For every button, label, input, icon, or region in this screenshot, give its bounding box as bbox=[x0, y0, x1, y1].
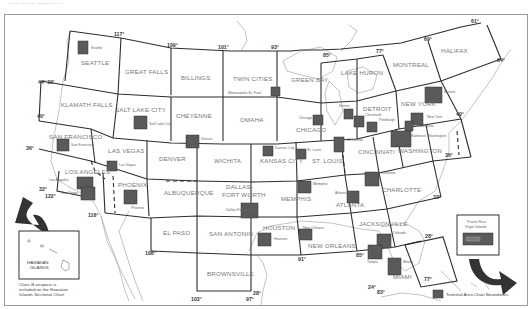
hawaii-inset[interactable]: HAWAIIAN ISLANDS bbox=[19, 231, 79, 279]
sectional-montreal[interactable]: MONTREAL bbox=[393, 61, 429, 68]
svg-text:ISLANDS: ISLANDS bbox=[30, 265, 49, 270]
svg-text:61°: 61° bbox=[471, 18, 479, 24]
svg-text:Orlando: Orlando bbox=[393, 231, 406, 235]
svg-text:Minneapolis-St. Paul: Minneapolis-St. Paul bbox=[228, 91, 261, 95]
svg-text:122°: 122° bbox=[45, 193, 56, 199]
svg-text:San Francisco: San Francisco bbox=[71, 143, 94, 147]
svg-text:St. Louis: St. Louis bbox=[307, 148, 321, 152]
sectional-albuquerque[interactable]: ALBUQUERQUE bbox=[164, 189, 214, 196]
sectional-san-antonio[interactable]: SAN ANTONIO bbox=[209, 230, 253, 237]
sectional-great-falls[interactable]: GREAT FALLS bbox=[125, 68, 168, 75]
svg-text:Houston: Houston bbox=[274, 237, 287, 241]
sectional-chicago[interactable]: CHICAGO bbox=[296, 126, 326, 133]
sectional-omaha[interactable]: OMAHA bbox=[240, 116, 264, 123]
sectional-seattle[interactable]: SEATTLE bbox=[81, 59, 109, 66]
svg-text:Detroit: Detroit bbox=[339, 104, 350, 108]
sectional-salt-lake-city[interactable]: SALT LAKE CITY bbox=[115, 106, 166, 113]
svg-text:109°: 109° bbox=[167, 42, 178, 48]
sectional-brownsville[interactable]: BROWNSVILLE bbox=[207, 270, 254, 277]
sectional-washington[interactable]: WASHINGTON bbox=[398, 147, 442, 154]
svg-text:97°: 97° bbox=[246, 296, 254, 302]
sectional-lake-huron[interactable]: LAKE HURON bbox=[341, 69, 383, 76]
svg-text:New Orleans: New Orleans bbox=[303, 226, 324, 230]
svg-text:28°: 28° bbox=[425, 233, 433, 239]
svg-text:Cleveland: Cleveland bbox=[365, 113, 381, 117]
sectional-twin-cities[interactable]: TWIN CITIES bbox=[233, 75, 273, 82]
sectional-denver[interactable]: DENVER bbox=[159, 155, 186, 162]
legend-swatch bbox=[433, 290, 443, 298]
svg-text:101°: 101° bbox=[218, 44, 229, 50]
svg-text:Las Vegas: Las Vegas bbox=[119, 163, 136, 167]
svg-text:28°: 28° bbox=[253, 290, 261, 296]
sectional-green-bay[interactable]: GREEN BAY bbox=[291, 76, 328, 83]
svg-text:64°: 64° bbox=[497, 57, 505, 63]
sectional-las-vegas[interactable]: LAS VEGAS bbox=[108, 147, 145, 154]
puerto-rico-inset[interactable]: Puerto Rico- Virgin Islands bbox=[457, 215, 499, 255]
sectional-los-angeles[interactable]: LOS ANGELES bbox=[65, 168, 110, 175]
svg-text:117°: 117° bbox=[114, 31, 124, 37]
svg-text:36°: 36° bbox=[26, 145, 34, 151]
sectional-jacksonville[interactable]: JACKSONVILLE bbox=[359, 220, 407, 227]
svg-text:91°: 91° bbox=[298, 256, 306, 262]
svg-text:40°: 40° bbox=[37, 113, 45, 119]
sectional-el-paso[interactable]: EL PASO bbox=[163, 229, 190, 236]
svg-text:Boston: Boston bbox=[444, 90, 455, 94]
svg-text:103°: 103° bbox=[191, 296, 202, 302]
svg-text:Denver: Denver bbox=[201, 137, 213, 141]
sectional-new-orleans[interactable]: NEW ORLEANS bbox=[308, 242, 356, 249]
sectional-charlotte[interactable]: CHARLOTTE bbox=[382, 186, 421, 193]
svg-text:85°: 85° bbox=[323, 52, 331, 58]
sectional-cincinnati[interactable]: CINCINNATI bbox=[358, 148, 395, 155]
sectional-wichita[interactable]: WICHITA bbox=[214, 157, 242, 164]
svg-text:Dallas-Fort Worth: Dallas-Fort Worth bbox=[226, 208, 254, 212]
sectional-chart-index-map: SEATTLE GREAT FALLS BILLINGS TWIN CITIES… bbox=[4, 14, 528, 306]
caption-fragment: ~ ~~ ~~ ~~~ ~~~~~~~ ~ bbox=[8, 0, 62, 6]
svg-text:Pittsburgh: Pittsburgh bbox=[379, 118, 395, 122]
sectional-new-york[interactable]: NEW YORK bbox=[401, 100, 437, 107]
svg-text:108°: 108° bbox=[145, 250, 156, 256]
svg-text:85°: 85° bbox=[356, 252, 364, 258]
svg-text:Kansas City: Kansas City bbox=[275, 146, 294, 150]
svg-text:Virgin Islands: Virgin Islands bbox=[465, 225, 487, 229]
svg-text:77°: 77° bbox=[376, 48, 384, 54]
svg-text:32°: 32° bbox=[39, 186, 47, 192]
svg-text:44° 30': 44° 30' bbox=[38, 79, 54, 85]
svg-text:Atlanta: Atlanta bbox=[335, 191, 346, 195]
sectional-atlanta[interactable]: ATLANTA bbox=[336, 201, 365, 208]
sectional-klamath-falls[interactable]: KLAMATH FALLS bbox=[61, 101, 113, 108]
svg-text:Phoenix: Phoenix bbox=[131, 206, 144, 210]
svg-text:Los Angeles: Los Angeles bbox=[49, 178, 69, 182]
svg-text:116°: 116° bbox=[88, 212, 98, 218]
sectional-billings[interactable]: BILLINGS bbox=[181, 74, 210, 81]
sectional-fort-worth[interactable]: FORT WORTH bbox=[222, 191, 266, 198]
svg-text:Memphis: Memphis bbox=[313, 182, 328, 186]
svg-text:New York: New York bbox=[427, 115, 442, 119]
sectional-dallas[interactable]: DALLAS- bbox=[226, 183, 253, 190]
sectional-miami[interactable]: MIAMI bbox=[393, 273, 412, 280]
sectional-st-louis[interactable]: ST. LOUIS bbox=[312, 157, 343, 164]
sectional-kansas-city[interactable]: KANSAS CITY bbox=[260, 157, 303, 164]
legend-label: Terminal Area Chart Boundaries bbox=[446, 292, 509, 297]
svg-text:32°: 32° bbox=[433, 194, 441, 200]
svg-text:36°: 36° bbox=[445, 152, 453, 158]
svg-text:Cincinnati: Cincinnati bbox=[347, 138, 363, 142]
sectional-detroit[interactable]: DETROIT bbox=[363, 105, 392, 112]
svg-text:Baltimore-Washington: Baltimore-Washington bbox=[411, 134, 446, 138]
svg-text:83°: 83° bbox=[377, 289, 385, 295]
sectional-phoenix[interactable]: PHOENIX bbox=[118, 181, 147, 188]
svg-text:77°: 77° bbox=[424, 276, 432, 282]
hawaii-note-3: Islands Sectional Chart bbox=[19, 292, 65, 297]
svg-text:Chicago: Chicago bbox=[299, 116, 312, 120]
svg-text:40°: 40° bbox=[456, 111, 464, 117]
sectional-halifax[interactable]: HALIFAX bbox=[441, 47, 468, 54]
sectional-cheyenne[interactable]: CHEYENNE bbox=[176, 112, 212, 119]
svg-text:Miami: Miami bbox=[403, 260, 413, 264]
hawaii-arrow-icon bbox=[15, 197, 49, 233]
legend: Terminal Area Chart Boundaries bbox=[433, 290, 509, 298]
svg-text:Puerto Rico-: Puerto Rico- bbox=[467, 220, 488, 224]
sectional-houston[interactable]: HOUSTON bbox=[263, 224, 295, 231]
svg-text:Philadelphia: Philadelphia bbox=[414, 124, 434, 128]
sectional-memphis[interactable]: MEMPHIS bbox=[281, 195, 311, 202]
sectional-san-francisco[interactable]: SAN FRANCISCO bbox=[49, 133, 102, 140]
svg-text:69°: 69° bbox=[424, 36, 432, 42]
